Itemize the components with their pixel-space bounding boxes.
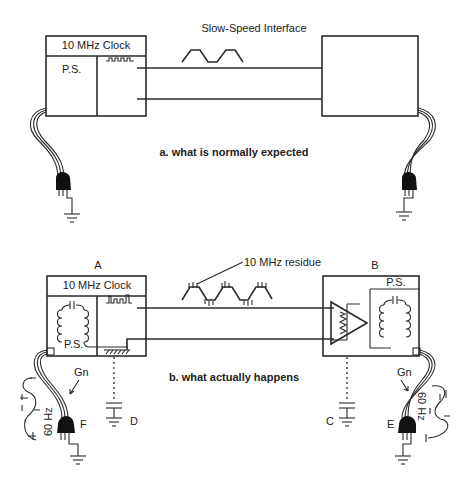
figure-b: A B 10 MHz Clock P.S. 10 MHz residue — [20, 256, 450, 464]
plug-icon — [402, 172, 417, 190]
device-right-box — [322, 36, 418, 116]
point-e-label: E — [387, 418, 394, 430]
hz-left-label: 60 Hz — [42, 407, 54, 436]
clock-label-a: 10 MHz Clock — [62, 39, 131, 51]
gn-right-label: Gn — [397, 366, 412, 378]
plug-icon — [57, 416, 75, 433]
signal-line-bottom-b — [127, 339, 334, 350]
slow-wave-icon — [182, 50, 243, 62]
hum-wave-left-icon — [23, 378, 36, 440]
transformer-b-icon — [380, 296, 411, 337]
plug-icon — [398, 416, 416, 433]
gn-right-arrow — [401, 380, 408, 391]
residue-pointer — [197, 262, 243, 284]
point-f-label: F — [80, 418, 87, 430]
device-b-label: B — [371, 259, 378, 271]
residue-label: 10 MHz residue — [244, 256, 321, 268]
hum-wave-right-icon — [428, 386, 448, 438]
ps-label-a: P.S. — [64, 338, 83, 350]
gn-left-label: Gn — [74, 366, 89, 378]
stray-capacitance-d — [106, 357, 122, 426]
device-b-box — [323, 276, 419, 356]
clock-pulse-icon — [106, 58, 134, 61]
receiver-amplifier-icon — [331, 302, 367, 344]
ps-label-b: P.S. — [386, 276, 405, 288]
point-d-label: D — [130, 415, 138, 427]
residue-wave-icon — [182, 281, 272, 306]
clock-label-b: 10 MHz Clock — [63, 279, 132, 291]
ps-label-a: P.S. — [62, 63, 81, 75]
plug-icon — [56, 172, 71, 190]
hz-right-label: 60 Hz — [416, 392, 428, 421]
grounding-diagram: 10 MHz Clock P.S. Slow-Speed Interface a… — [0, 0, 472, 488]
point-c-label: C — [326, 415, 334, 427]
caption-b: b. what actually happens — [169, 371, 299, 383]
gn-left-arrow — [70, 380, 79, 394]
power-cord-right-a — [396, 108, 435, 220]
stray-capacitance-c — [339, 357, 355, 426]
interface-label: Slow-Speed Interface — [201, 22, 306, 34]
ground-terminal-a — [47, 348, 54, 355]
device-a-label: A — [94, 259, 102, 271]
figure-a: 10 MHz Clock P.S. Slow-Speed Interface a… — [30, 22, 435, 222]
caption-a: a. what is normally expected — [159, 146, 308, 158]
power-cord-left-a — [30, 108, 80, 222]
